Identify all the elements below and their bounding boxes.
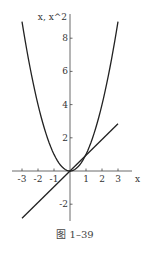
x-tick-label: 2 xyxy=(99,174,105,184)
x-tick-label: -3 xyxy=(18,174,27,184)
chart: -3-2-1123 x -22468 x, x^2 xyxy=(0,0,157,225)
x-tick-label: 3 xyxy=(115,174,121,184)
y-axis: -22468 x, x^2 xyxy=(38,12,73,221)
y-tick-label: 2 xyxy=(62,133,68,143)
x-axis: -3-2-1123 x xyxy=(12,169,140,185)
y-tick-label: 8 xyxy=(62,33,68,43)
y-axis-label: x, x^2 xyxy=(38,12,67,22)
y-tick-label: 4 xyxy=(62,100,68,110)
x-tick-label: -2 xyxy=(34,174,43,184)
figure-caption: 图 1–39 xyxy=(0,226,150,241)
x-tick-label: 1 xyxy=(83,174,89,184)
y-tick-label: -2 xyxy=(59,199,68,209)
x-tick-label: -1 xyxy=(50,174,59,184)
x-axis-label: x xyxy=(135,174,140,184)
y-tick-label: 6 xyxy=(62,66,68,76)
